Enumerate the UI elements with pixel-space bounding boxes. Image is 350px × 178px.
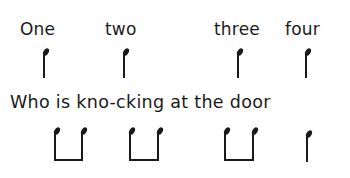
quaver-pair-icon xyxy=(53,126,89,160)
crotchet-note-icon xyxy=(305,129,314,162)
quaver-pair-icon xyxy=(128,126,165,160)
crotchet-note-icon xyxy=(42,47,51,78)
quaver-pair-icon xyxy=(223,126,260,160)
crotchet-note-icon xyxy=(236,47,245,78)
rhythm-notation xyxy=(0,0,350,178)
crotchet-note-icon xyxy=(122,47,131,78)
crotchet-note-icon xyxy=(304,47,313,78)
